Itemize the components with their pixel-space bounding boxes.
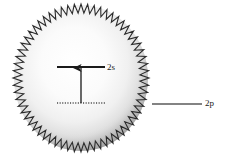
energy-level-diagram (0, 0, 231, 163)
energy-level-2p-label: 2p (205, 98, 214, 108)
figure-container: 2s 2p (0, 0, 231, 163)
energy-level-2s-label: 2s (107, 62, 115, 72)
